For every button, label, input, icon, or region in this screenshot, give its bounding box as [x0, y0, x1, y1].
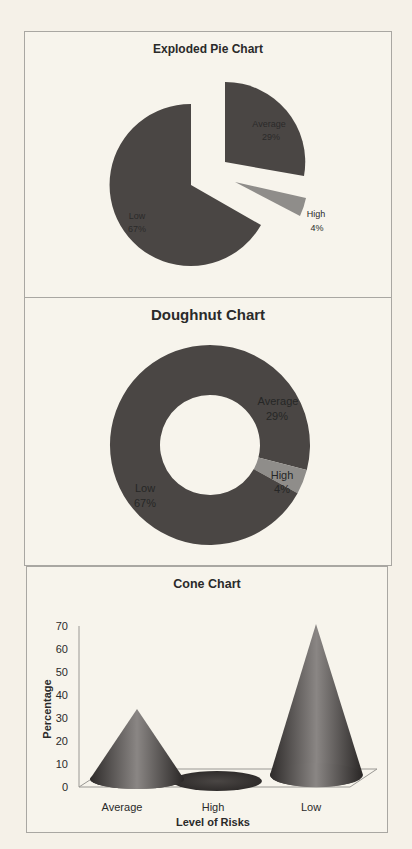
x-category-average: Average: [102, 801, 143, 813]
y-axis-label: Percentage: [41, 679, 53, 738]
pie-label-low-pct: 67%: [128, 224, 146, 234]
pie-label-high-name: High: [307, 209, 326, 219]
doughnut-chart-plot: Average 29% High 4% Low 67%: [25, 298, 393, 567]
pie-label-low-name: Low: [129, 211, 146, 221]
pie-label-average-name: Average: [252, 119, 285, 129]
y-tick-50: 50: [56, 666, 68, 678]
pie-label-average-pct: 29%: [262, 132, 280, 142]
doughnut-label-average-name: Average: [258, 395, 299, 407]
cone-chart-panel: Cone Chart 70 60 50 40 30 20 10 0: [26, 566, 388, 833]
x-category-high: High: [202, 801, 225, 813]
x-category-low: Low: [301, 801, 321, 813]
doughnut-label-high-pct: 4%: [274, 483, 290, 495]
doughnut-label-low-name: Low: [135, 482, 155, 494]
pie-chart-plot: Average 29% High 4% Low 67%: [25, 32, 393, 299]
y-tick-10: 10: [56, 758, 68, 770]
doughnut-label-average-pct: 29%: [266, 410, 288, 422]
exploded-pie-chart-panel: Exploded Pie Chart Average 29% High 4% L…: [24, 31, 392, 298]
y-tick-60: 60: [56, 643, 68, 655]
y-tick-40: 40: [56, 689, 68, 701]
cone-chart-plot: 70 60 50 40 30 20 10 0 Percentage Averag…: [27, 567, 389, 834]
pie-label-high-pct: 4%: [310, 223, 323, 233]
y-tick-0: 0: [62, 781, 68, 793]
x-axis-label: Level of Risks: [176, 816, 250, 828]
doughnut-slice-average: [210, 345, 310, 470]
cone-low: [270, 624, 363, 787]
doughnut-label-low-pct: 67%: [134, 497, 156, 509]
cone-high: [172, 771, 262, 791]
cone-average: [90, 709, 184, 789]
y-tick-30: 30: [56, 712, 68, 724]
pie-slice-high: [235, 182, 306, 216]
y-tick-20: 20: [56, 735, 68, 747]
doughnut-chart-panel: Doughnut Chart Average 29% High 4% Low 6…: [24, 297, 392, 566]
y-tick-70: 70: [56, 620, 68, 632]
doughnut-label-high-name: High: [271, 469, 294, 481]
